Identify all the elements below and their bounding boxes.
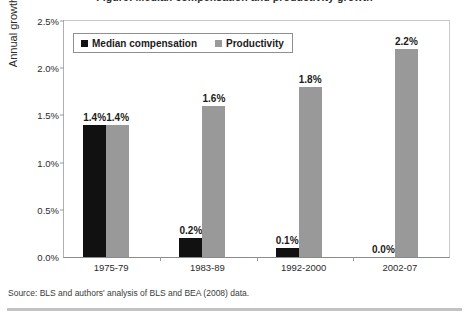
bar-1975-79-median-compensation[interactable]: 1.4% [83, 125, 106, 257]
bar-value-label: 0.0% [372, 244, 395, 255]
chart-title-text: Figure: Median compensation and producti… [0, 0, 469, 3]
bar-1975-79-productivity[interactable]: 1.4% [106, 125, 129, 257]
plot-area: 0.0%0.5%1.0%1.5%2.0%2.5%1.4%1.4%0.2%1.6%… [63, 20, 450, 258]
x-axis-category-label: 2002-07 [382, 262, 417, 273]
source-note: Source: BLS and authors' analysis of BLS… [8, 288, 249, 298]
chart-title-cropped: Figure: Median compensation and producti… [0, 0, 469, 3]
bar-1983-89-median-compensation[interactable]: 0.2% [179, 238, 202, 257]
bar-2002-07-productivity[interactable]: 2.2% [395, 49, 418, 257]
x-axis-category-label: 1992-2000 [281, 262, 326, 273]
y-axis-tick-label: 0.5% [37, 204, 59, 215]
y-axis-tick-label: 1.5% [37, 110, 59, 121]
bar-value-label: 0.1% [276, 235, 299, 246]
bar-value-label: 0.2% [179, 225, 202, 236]
y-axis-tick-mark [60, 68, 64, 69]
footer-divider [7, 308, 462, 311]
y-axis-title: Annual growth [2, 0, 24, 100]
legend-entry-median-compensation: Median compensation [81, 38, 197, 49]
y-axis-tick-mark [60, 115, 64, 116]
legend-entry-productivity: Productivity [215, 38, 284, 49]
bar-value-label: 2.2% [395, 36, 418, 47]
y-axis-tick-label: 0.0% [37, 252, 59, 263]
y-axis-tick-mark [60, 21, 64, 22]
bar-value-label: 1.4% [106, 112, 129, 123]
bar-1983-89-productivity[interactable]: 1.6% [202, 106, 225, 257]
x-axis-tick-mark [353, 257, 354, 261]
y-axis-tick-label: 2.0% [37, 63, 59, 74]
x-axis-tick-mark [160, 257, 161, 261]
bar-value-label: 1.8% [299, 74, 322, 85]
y-axis-tick-label: 1.0% [37, 157, 59, 168]
legend-swatch-icon-productivity [215, 40, 222, 47]
bar-value-label: 1.4% [83, 112, 106, 123]
bar-1992-2000-median-compensation[interactable]: 0.1% [276, 248, 299, 257]
x-axis-tick-mark [257, 257, 258, 261]
bar-value-label: 1.6% [202, 93, 225, 104]
chart-legend: Median compensation Productivity [73, 33, 293, 53]
y-axis-tick-mark [60, 209, 64, 210]
x-axis-category-label: 1975-79 [94, 262, 129, 273]
legend-swatch-icon-median-compensation [81, 40, 88, 47]
legend-label-median-compensation: Median compensation [92, 38, 197, 49]
legend-label-productivity: Productivity [226, 38, 284, 49]
bar-1992-2000-productivity[interactable]: 1.8% [299, 87, 322, 257]
figure-container: Figure: Median compensation and producti… [0, 0, 469, 316]
x-axis-category-label: 1983-89 [190, 262, 225, 273]
y-axis-tick-label: 2.5% [37, 16, 59, 27]
y-axis-tick-mark [60, 162, 64, 163]
